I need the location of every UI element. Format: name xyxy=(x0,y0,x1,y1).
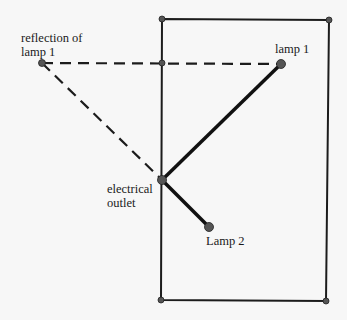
label-outlet-line1: electrical xyxy=(107,182,153,196)
diagram-canvas: reflection of lamp 1 lamp 1 electrical o… xyxy=(0,0,347,320)
corner-point-top-right xyxy=(326,17,332,23)
label-reflection-line1: reflection of xyxy=(21,31,82,45)
label-outlet-line2: outlet xyxy=(107,196,135,210)
lamp2-point xyxy=(205,223,214,232)
corner-point-bottom-left xyxy=(158,297,164,303)
mirror-intersection-point xyxy=(159,60,165,66)
corner-point-top-left xyxy=(159,16,165,22)
outlet-point xyxy=(158,176,167,185)
corner-point-bottom-right xyxy=(323,298,329,304)
cord-outlet-to-lamp1 xyxy=(162,64,281,180)
label-lamp1: lamp 1 xyxy=(275,42,309,56)
label-reflection-line2: lamp 1 xyxy=(21,45,55,59)
lamp1-point xyxy=(277,60,286,69)
reflection-point xyxy=(39,60,46,67)
cord-outlet-to-lamp2 xyxy=(162,180,209,227)
dashed-line-reflection-to-outlet xyxy=(42,63,162,180)
label-lamp2: Lamp 2 xyxy=(206,234,245,248)
room-outline xyxy=(161,19,329,301)
